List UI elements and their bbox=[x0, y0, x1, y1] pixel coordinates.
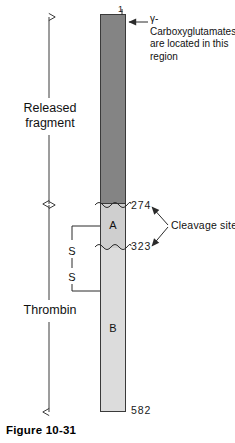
protein-segment-released-fragment bbox=[100, 14, 126, 204]
figure-container: A B 1 274 323 582 Released fragment Thro… bbox=[0, 0, 235, 443]
residue-number-end: 582 bbox=[131, 404, 151, 416]
cleavage-sites-pointer bbox=[152, 207, 168, 246]
disulfide-sulfur-upper: S bbox=[66, 245, 78, 257]
gamma-carboxyglutamates-annotation: γ-Carboxyglutamates are located in this … bbox=[150, 13, 234, 63]
released-fragment-label: Released fragment bbox=[6, 101, 94, 131]
thrombin-label: Thrombin bbox=[6, 303, 94, 318]
released-fragment-label-line2: fragment bbox=[6, 116, 94, 131]
disulfide-sulfur-lower: S bbox=[66, 271, 78, 283]
residue-number-cleavage-lower: 323 bbox=[131, 240, 151, 252]
figure-caption: Figure 10-31 bbox=[6, 424, 76, 436]
residue-number-start: 1 bbox=[118, 4, 123, 14]
segment-a-label: A bbox=[100, 219, 126, 231]
cleavage-sites-annotation: Cleavage sites bbox=[171, 219, 235, 231]
released-fragment-label-line1: Released bbox=[6, 101, 94, 116]
segment-b-label: B bbox=[100, 322, 126, 334]
residue-number-cleavage-upper: 274 bbox=[131, 199, 151, 211]
